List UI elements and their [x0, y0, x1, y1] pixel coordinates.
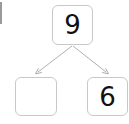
- whole-value: 9: [64, 12, 81, 38]
- whole-box: 9: [52, 5, 93, 45]
- arrow-right: [73, 46, 106, 72]
- part-box-right: 6: [87, 77, 128, 116]
- part-value-right: 6: [99, 84, 116, 110]
- part-box-left[interactable]: [15, 77, 57, 116]
- arrow-left: [38, 46, 72, 72]
